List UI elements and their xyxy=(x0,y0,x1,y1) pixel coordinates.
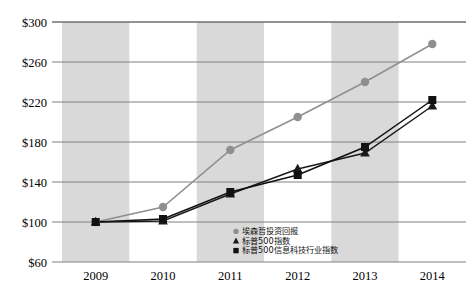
x-tick-label: 2011 xyxy=(218,269,243,283)
y-tick-label: $180 xyxy=(22,136,47,150)
x-tick-label: 2012 xyxy=(285,269,310,283)
series-0-point-4 xyxy=(361,78,369,86)
x-tick-label: 2013 xyxy=(353,269,378,283)
x-tick-label: 2009 xyxy=(83,269,108,283)
series-2-point-3 xyxy=(294,171,302,179)
y-tick-label: $140 xyxy=(22,176,47,190)
legend-square-marker xyxy=(233,248,238,253)
series-2-point-4 xyxy=(361,143,369,151)
x-tick-label: 2010 xyxy=(151,269,176,283)
legend-circle-marker xyxy=(233,229,238,234)
legend-label: 标普500指数 xyxy=(242,236,290,246)
chart-container: $60$100$140$180$220$260$3002009201020112… xyxy=(0,0,474,289)
series-2-point-0 xyxy=(92,218,100,226)
series-0-point-3 xyxy=(294,113,302,121)
y-tick-label: $260 xyxy=(22,56,47,70)
series-0-point-5 xyxy=(428,40,436,48)
x-tick-label: 2014 xyxy=(420,269,446,283)
x-axis-labels: 200920102011201220132014 xyxy=(83,269,445,283)
y-tick-label: $60 xyxy=(28,256,47,270)
legend: 埃森哲投资回报标普500指数标普500信息科技行业指数 xyxy=(233,226,338,255)
y-tick-label: $300 xyxy=(22,16,47,30)
y-axis-labels: $60$100$140$180$220$260$300 xyxy=(22,16,47,270)
line-chart: $60$100$140$180$220$260$3002009201020112… xyxy=(0,0,474,289)
y-tick-label: $100 xyxy=(22,216,47,230)
series-0-point-1 xyxy=(159,203,167,211)
series-2-point-5 xyxy=(428,96,436,104)
series-2-point-2 xyxy=(226,188,234,196)
legend-label: 标普500信息科技行业指数 xyxy=(242,245,338,255)
legend-label: 埃森哲投资回报 xyxy=(242,226,298,236)
series-2-point-1 xyxy=(159,215,167,223)
series-0-point-2 xyxy=(226,146,234,154)
y-tick-label: $220 xyxy=(22,96,47,110)
